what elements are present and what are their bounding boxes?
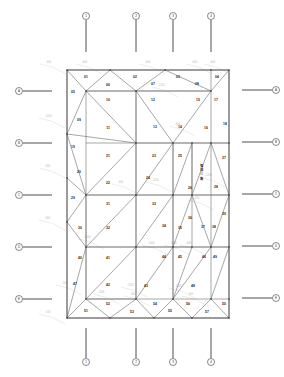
panel-edge <box>110 299 136 318</box>
vertex-node <box>210 90 212 92</box>
axis-dim-text: · · <box>255 74 257 77</box>
vertex-node <box>135 142 137 144</box>
vertex-node <box>135 298 137 300</box>
panel-number: 42 <box>106 283 110 287</box>
dimension-label: -1200 <box>152 178 159 182</box>
panel-number: 53 <box>130 310 134 314</box>
panel-number: 13 <box>153 125 157 129</box>
panel-number: 37 <box>201 225 205 229</box>
panel-number: 19 <box>71 145 75 149</box>
vertex-node <box>172 142 174 144</box>
vertex-node <box>85 90 87 92</box>
panel-edge <box>86 91 136 143</box>
dimension-label: -1100 <box>158 83 165 87</box>
axis-dim-text: · · <box>117 342 119 345</box>
panel-edge <box>173 247 192 299</box>
axis-label-left: B <box>18 141 20 145</box>
plan-outline <box>67 70 229 318</box>
panel-number: 14 <box>178 125 182 129</box>
dimension-leader <box>39 118 65 128</box>
dimension-label: -300 <box>130 292 136 296</box>
panel-edge <box>173 91 211 143</box>
panel-number: 27 <box>222 156 226 160</box>
vertex-node <box>191 194 193 196</box>
axis-label-right: B <box>275 140 277 144</box>
panel-number: 22 <box>106 181 110 185</box>
panel-number: 18 <box>223 122 227 126</box>
panel-edge <box>136 143 173 195</box>
panel-edge <box>110 70 136 91</box>
panel-number: 41 <box>106 256 110 260</box>
panel-edge <box>67 195 86 222</box>
vertex-node <box>191 142 193 144</box>
axis-dim-text: · · <box>192 30 194 33</box>
vertex-node <box>172 246 174 248</box>
panel-number: 52 <box>106 302 110 306</box>
panel-number: 29 <box>71 196 75 200</box>
panel-number: 50 <box>222 302 226 306</box>
dimension-leader <box>186 64 212 74</box>
panel-number: 09 <box>77 118 81 122</box>
panel-edge <box>86 70 110 91</box>
panel-number: 30 <box>78 226 82 230</box>
panel-number: 48 <box>191 284 195 288</box>
vertex-node <box>210 142 212 144</box>
panel-number: 12 <box>151 98 155 102</box>
vertex-node <box>191 246 193 248</box>
dimension-label: -600 <box>46 60 52 64</box>
vertex-node <box>172 194 174 196</box>
panel-edge <box>67 222 86 247</box>
panel-number: 25 <box>178 154 182 158</box>
dimension-label: -1000 <box>45 114 52 118</box>
dimension-leader <box>112 184 138 194</box>
dimension-label: -300 <box>188 292 194 296</box>
panel-number: 17 <box>214 98 218 102</box>
axis-label-left: A <box>18 89 20 93</box>
panel-number: 04 <box>215 75 219 79</box>
dimension-leader <box>199 177 225 187</box>
panel-number: 56 <box>186 302 190 306</box>
panel-layout-plan: -600-600-600-600-600-1100-1000-600-600-1… <box>0 0 284 377</box>
vertex-node <box>85 246 87 248</box>
dimension-leader <box>180 245 206 255</box>
panel-number: 54 <box>153 302 157 306</box>
dimension-leader <box>146 182 172 192</box>
panel-number: 28 <box>214 185 218 189</box>
vertex-node <box>135 90 137 92</box>
panel-number: 20 <box>77 170 81 174</box>
panel-number: 31 <box>106 202 110 206</box>
panel-number: 35 <box>178 226 182 230</box>
dimension-label: -600 <box>45 216 51 220</box>
panel-number: 39 <box>222 212 226 216</box>
dimension-label: -100 <box>45 310 51 314</box>
axis-dim-text: · · <box>255 230 257 233</box>
panel-edge <box>67 134 136 143</box>
panel-number: 47 <box>73 282 77 286</box>
vertex-node <box>85 298 87 300</box>
axis-dim-text: · · <box>154 342 156 345</box>
dimension-leader <box>164 245 190 255</box>
panel-number: 15 <box>196 98 200 102</box>
axis-dim-text: · · <box>255 126 257 129</box>
panel-number: 38 <box>212 225 216 229</box>
dimension-label: -1000 <box>84 235 91 239</box>
panel-number: 05 <box>71 90 75 94</box>
panel-number: 40 <box>78 256 82 260</box>
vertex-node <box>172 298 174 300</box>
dimension-label: -600 <box>118 180 124 184</box>
panel-number: 32 <box>106 226 110 230</box>
panel-number: 33 <box>152 202 156 206</box>
panel-edge <box>211 299 229 318</box>
dimension-leader <box>204 64 230 74</box>
dimension-leader <box>78 239 104 249</box>
vertex-node <box>135 246 137 248</box>
dimension-label: -600 <box>82 60 88 64</box>
panel-number: 45 <box>178 255 182 259</box>
vertex-node <box>135 194 137 196</box>
dimension-label: -600 <box>192 60 198 64</box>
dimension-label: -600 <box>186 241 192 245</box>
drawing-canvas: -600-600-600-600-600-1100-1000-600-600-1… <box>0 0 284 377</box>
axis-label-right: A <box>275 88 277 92</box>
dimension-label: -600 <box>210 60 216 64</box>
dimension-leader <box>142 245 168 255</box>
